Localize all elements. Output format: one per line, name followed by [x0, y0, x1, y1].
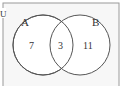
- a-only-value: 7: [29, 40, 34, 51]
- venn-diagram: U A B 7 3 11: [0, 0, 122, 86]
- intersection-value: 3: [58, 40, 63, 51]
- universal-label: U: [0, 9, 7, 19]
- set-a-label: A: [21, 16, 29, 28]
- set-b-label: B: [92, 16, 99, 28]
- b-only-value: 11: [83, 40, 93, 51]
